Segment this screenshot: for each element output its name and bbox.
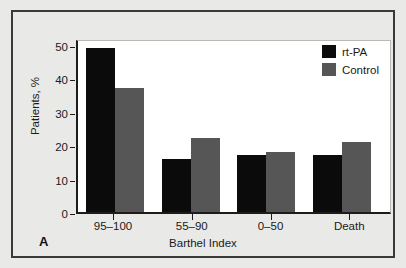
y-tick-mark (70, 114, 75, 115)
chart-legend: rt-PAControl (322, 45, 379, 81)
x-tick-label: 95–100 (94, 220, 132, 232)
bar-control (115, 88, 144, 212)
bar-rt-pa (86, 48, 115, 212)
y-tick-label: 40 (22, 74, 68, 86)
y-tick-mark (70, 80, 75, 81)
y-tick-label: 0 (22, 208, 68, 220)
y-tick-mark (70, 147, 75, 148)
legend-swatch-icon (322, 63, 336, 76)
bar-group (162, 41, 238, 212)
y-tick-mark (70, 181, 75, 182)
bar-rt-pa (162, 159, 191, 212)
bar-rt-pa (313, 155, 342, 212)
bar-control (342, 142, 371, 212)
legend-label: Control (342, 64, 379, 76)
legend-label: rt-PA (342, 46, 367, 58)
legend-swatch-icon (322, 45, 336, 58)
x-tick-label: 55–90 (176, 220, 208, 232)
y-tick-mark (70, 214, 75, 215)
figure-panel: Patients, % 01020304050 95–10055–900–50D… (0, 0, 406, 268)
x-axis-title: Barthel Index (13, 237, 393, 249)
x-tick-label: 0–50 (258, 220, 284, 232)
bar-group (86, 41, 162, 212)
bar-rt-pa (237, 155, 266, 212)
figure-frame: Patients, % 01020304050 95–10055–900–50D… (11, 10, 395, 258)
y-tick-label: 10 (22, 175, 68, 187)
legend-item: Control (322, 63, 379, 76)
y-tick-label: 20 (22, 141, 68, 153)
bar-group (237, 41, 313, 212)
bar-control (266, 152, 295, 212)
y-tick-mark (70, 47, 75, 48)
bar-control (191, 138, 220, 212)
panel-label: A (39, 234, 48, 249)
legend-item: rt-PA (322, 45, 379, 58)
y-tick-label: 50 (22, 41, 68, 53)
y-tick-label: 30 (22, 108, 68, 120)
x-tick-label: Death (334, 220, 365, 232)
